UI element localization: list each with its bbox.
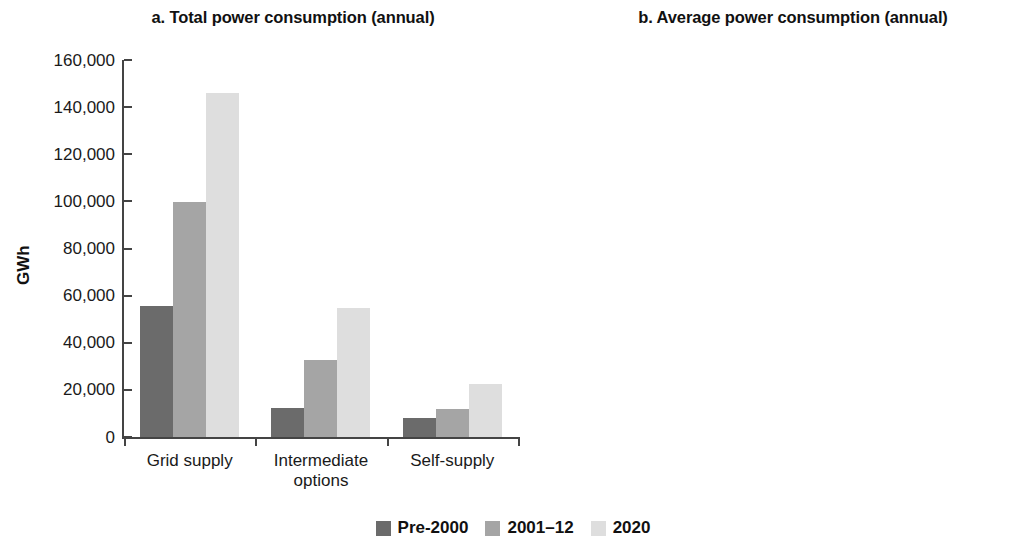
bar <box>469 384 502 437</box>
bar <box>140 306 173 437</box>
bar <box>173 202 206 437</box>
panel-a-y-axis-label: GWh <box>14 245 34 285</box>
panel-a-bars <box>124 60 518 437</box>
x-tick-mark <box>255 437 257 446</box>
x-tick-mark <box>387 437 389 446</box>
chart-panel-b: b. Average power consumption (annual) GW… <box>530 0 1026 512</box>
legend-label: 2001–12 <box>507 518 573 538</box>
x-tick-mark <box>124 437 126 446</box>
y-tick-label: 20,000 <box>63 381 124 398</box>
y-tick-label: 40,000 <box>63 334 124 351</box>
bar-group <box>387 60 518 437</box>
bar <box>304 360 337 437</box>
y-tick-label: 100,000 <box>54 193 124 210</box>
bar <box>337 308 370 437</box>
legend-label: 2020 <box>613 518 651 538</box>
bar <box>436 409 469 437</box>
x-tick-label: Self-supply <box>387 451 518 471</box>
legend-label: Pre-2000 <box>398 518 469 538</box>
legend-item: 2001–12 <box>485 518 573 538</box>
legend-item: Pre-2000 <box>376 518 469 538</box>
chart-legend: Pre-20002001–122020 <box>0 518 1026 538</box>
y-tick-label: 0 <box>106 429 124 446</box>
y-tick-label: 80,000 <box>63 240 124 257</box>
legend-item: 2020 <box>591 518 651 538</box>
x-tick-label: Intermediate options <box>255 451 386 490</box>
bar-group <box>124 60 255 437</box>
y-tick-label: 160,000 <box>54 52 124 69</box>
y-tick-label: 140,000 <box>54 99 124 116</box>
bar <box>271 408 304 437</box>
y-tick-label: 60,000 <box>63 287 124 304</box>
legend-swatch <box>376 521 391 536</box>
y-tick-label: 120,000 <box>54 146 124 163</box>
bar <box>206 93 239 437</box>
x-tick-label: Grid supply <box>124 451 255 471</box>
panel-b-title: b. Average power consumption (annual) <box>530 8 1026 27</box>
legend-swatch <box>591 521 606 536</box>
bar <box>403 418 436 437</box>
figure-container: a. Total power consumption (annual) GWh … <box>0 0 1026 548</box>
chart-panel-a: a. Total power consumption (annual) GWh … <box>0 0 530 512</box>
bar-group <box>255 60 386 437</box>
panel-a-plot-area: 020,00040,00060,00080,000100,000120,0001… <box>122 60 518 439</box>
panel-a-title: a. Total power consumption (annual) <box>0 8 530 27</box>
legend-swatch <box>485 521 500 536</box>
x-tick-mark <box>518 437 520 446</box>
